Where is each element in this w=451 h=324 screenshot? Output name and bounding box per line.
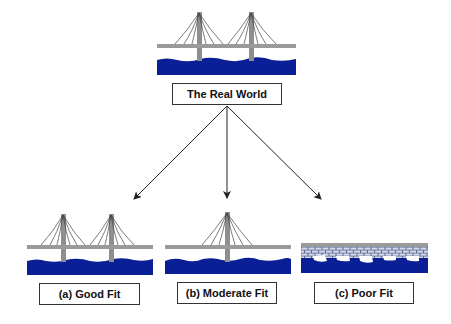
arrow-to-good-fit bbox=[134, 106, 227, 199]
poor-fit-bridge-image bbox=[301, 243, 428, 273]
root-label-box: The Real World bbox=[172, 83, 282, 105]
arrow-to-poor-fit bbox=[227, 106, 321, 199]
arrows bbox=[134, 106, 321, 199]
water bbox=[157, 57, 296, 75]
root-bridge-image bbox=[157, 12, 296, 75]
moderate-fit-label: (b) Moderate Fit bbox=[186, 287, 269, 299]
poor-fit-label: (c) Poor Fit bbox=[335, 287, 393, 299]
water bbox=[27, 258, 153, 275]
good-fit-label-box: (a) Good Fit bbox=[39, 283, 140, 305]
good-fit-label: (a) Good Fit bbox=[59, 288, 121, 300]
good-fit-bridge-image bbox=[27, 214, 153, 275]
moderate-fit-label-box: (b) Moderate Fit bbox=[177, 282, 277, 304]
poor-fit-label-box: (c) Poor Fit bbox=[314, 282, 414, 304]
diagram-canvas bbox=[0, 0, 451, 324]
moderate-fit-bridge-image bbox=[165, 212, 291, 274]
deck bbox=[157, 44, 296, 48]
deck bbox=[27, 245, 153, 249]
root-label: The Real World bbox=[187, 88, 267, 100]
deck bbox=[165, 245, 291, 249]
deck bbox=[301, 243, 428, 247]
cables bbox=[41, 215, 134, 245]
cables bbox=[175, 13, 276, 44]
